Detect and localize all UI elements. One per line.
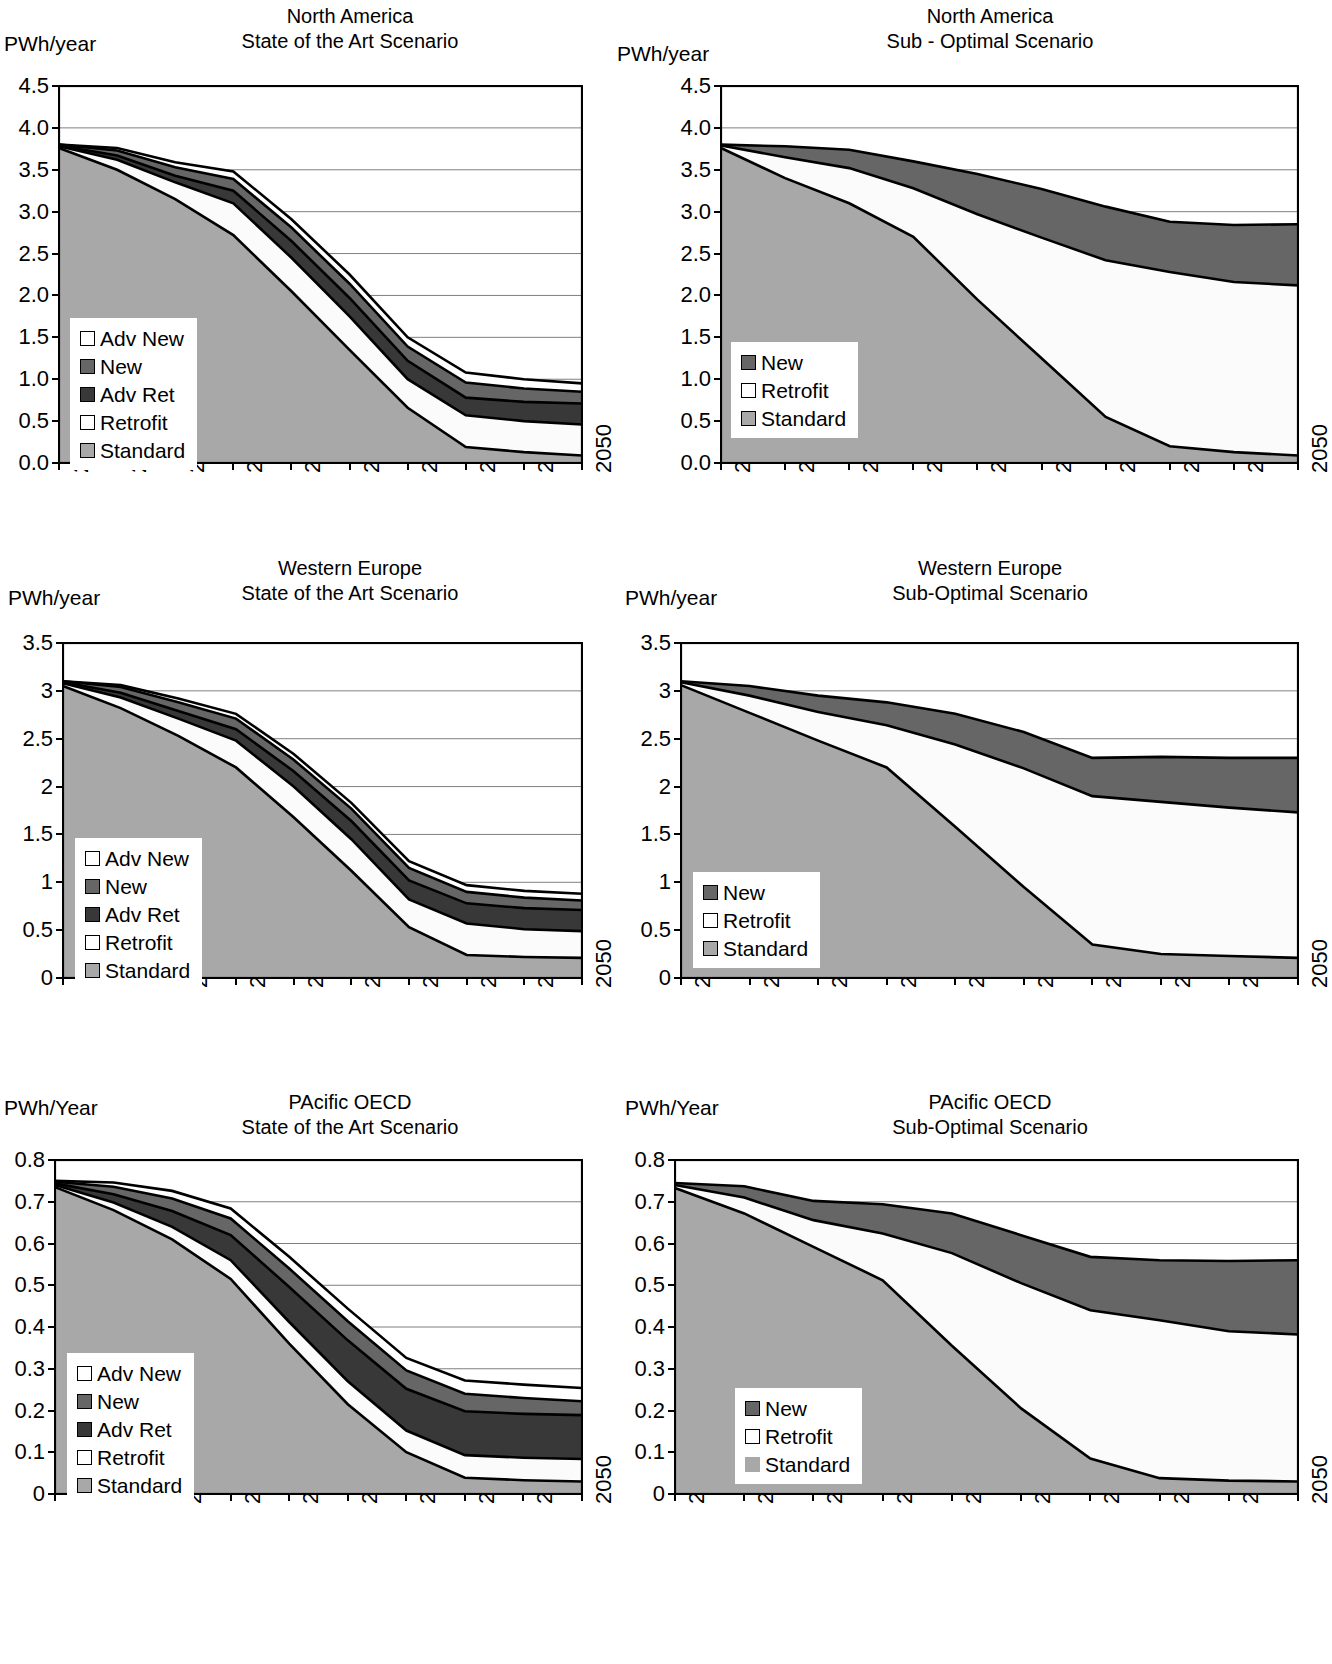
legend-swatch-icon [85,907,100,922]
legend-item: Standard [77,1471,182,1499]
y-axis-tick-label: 0.5 [1,1272,45,1298]
x-axis-tick-mark [407,463,409,470]
x-axis-tick-mark [912,463,914,470]
y-axis-tick-label: 4.5 [663,73,711,99]
y-axis-tick-mark [668,1326,675,1328]
y-axis-tick-mark [52,127,59,129]
y-axis-tick-label: 0.7 [1,1189,45,1215]
x-axis-tick-mark [54,1494,56,1501]
x-axis-tick-label: 2050 [1307,1455,1332,1504]
y-axis-tick-label: 3.5 [1,157,49,183]
x-axis-tick-mark [1160,978,1162,985]
legend-item: New [77,1387,182,1415]
legend-label: Standard [723,938,808,959]
legend-item: New [80,352,185,380]
chart-title-line1: Western Europe [160,556,540,581]
y-axis-tick-label: 2.5 [623,726,671,752]
y-axis-unit-label: PWh/year [8,586,100,610]
y-axis-tick-mark [48,1284,55,1286]
x-axis-tick-mark [812,1494,814,1501]
chart-legend: Adv NewNewAdv RetRetrofitStandard [75,838,202,990]
legend-label: New [761,352,803,373]
y-axis-tick-mark [48,1451,55,1453]
y-axis-tick-mark [52,378,59,380]
y-axis-tick-label: 2.5 [5,726,53,752]
legend-item: New [745,1394,850,1422]
y-axis-tick-label: 0.5 [1,408,49,434]
legend-swatch-icon [745,1401,760,1416]
legend-swatch-icon [85,935,100,950]
chart-title: PAcific OECDSub-Optimal Scenario [800,1090,1180,1140]
y-axis-tick-mark [714,169,721,171]
y-axis-tick-mark [56,738,63,740]
y-axis-unit-label: PWh/year [625,586,717,610]
legend-label: Retrofit [723,910,791,931]
x-axis-tick-mark [466,978,468,985]
chart-title-line2: State of the Art Scenario [160,29,540,54]
y-axis-tick-label: 3.0 [1,199,49,225]
legend-swatch-icon [745,1457,760,1472]
y-axis-tick-mark [48,1326,55,1328]
legend-item: Adv New [77,1359,182,1387]
legend-swatch-icon [80,443,95,458]
legend-label: Standard [97,1475,182,1496]
x-axis-tick-mark [674,1494,676,1501]
y-axis-tick-label: 1.0 [1,366,49,392]
y-axis-tick-label: 0.0 [1,450,49,476]
x-axis-tick-mark [1233,463,1235,470]
y-axis-tick-label: 0.6 [1,1231,45,1257]
x-axis-tick-mark [848,463,850,470]
legend-swatch-icon [703,913,718,928]
y-axis-tick-label: 3.5 [623,630,671,656]
y-axis-tick-mark [52,336,59,338]
y-axis-tick-label: 4.0 [1,115,49,141]
y-axis-tick-label: 0.8 [621,1147,665,1173]
y-axis-tick-label: 0.5 [663,408,711,434]
y-axis-tick-label: 4.5 [1,73,49,99]
x-axis-tick-mark [581,463,583,470]
y-axis-tick-label: 0.2 [1,1398,45,1424]
x-axis-tick-mark [1228,1494,1230,1501]
y-axis-tick-label: 0.5 [621,1272,665,1298]
y-axis-tick-label: 0.2 [621,1398,665,1424]
legend-label: Adv Ret [105,904,180,925]
chart-title-line2: Sub-Optimal Scenario [800,1115,1180,1140]
legend-swatch-icon [741,411,756,426]
y-axis-tick-label: 0 [621,1481,665,1507]
y-axis-tick-mark [714,378,721,380]
y-axis-tick-label: 0 [1,1481,45,1507]
y-axis-tick-label: 0.1 [621,1439,665,1465]
x-axis-tick-mark [464,1494,466,1501]
legend-item: Standard [741,404,846,432]
y-axis-tick-label: 3 [5,678,53,704]
y-axis-tick-mark [714,294,721,296]
chart-title: North AmericaSub - Optimal Scenario [800,4,1180,54]
legend-swatch-icon [703,941,718,956]
y-axis-unit-label: PWh/year [617,42,709,66]
y-axis-tick-label: 2 [623,774,671,800]
x-axis-tick-mark [1159,1494,1161,1501]
chart-title: PAcific OECDState of the Art Scenario [160,1090,540,1140]
y-axis-tick-label: 0 [5,965,53,991]
legend-swatch-icon [745,1429,760,1444]
x-axis-tick-mark [1041,463,1043,470]
x-axis-tick-mark [58,463,60,470]
x-axis-tick-mark [290,463,292,470]
y-axis-tick-mark [56,642,63,644]
chart-title: Western EuropeSub-Optimal Scenario [800,556,1180,606]
y-axis-tick-mark [56,833,63,835]
x-axis-tick-label: 2050 [591,424,617,473]
x-axis-tick-mark [62,978,64,985]
x-axis-tick-mark [743,1494,745,1501]
chart-legend: Adv NewNewAdv RetRetrofitStandard [70,318,197,470]
legend-swatch-icon [77,1450,92,1465]
y-axis-tick-label: 0.4 [1,1314,45,1340]
x-axis-tick-mark [1105,463,1107,470]
y-axis-tick-label: 0.7 [621,1189,665,1215]
y-axis-tick-label: 1.5 [663,324,711,350]
y-axis-tick-label: 2 [5,774,53,800]
chart-legend: NewRetrofitStandard [731,342,858,438]
chart-title-line1: North America [800,4,1180,29]
legend-label: Retrofit [761,380,829,401]
y-axis-tick-mark [668,1201,675,1203]
